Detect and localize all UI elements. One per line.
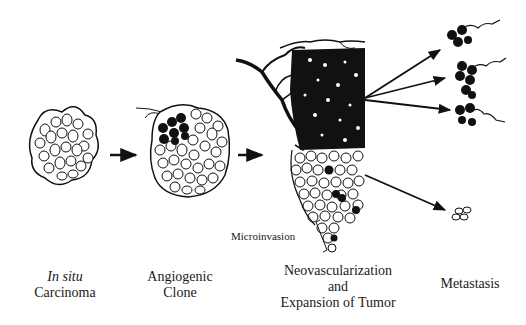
carcinoma-text: Carcinoma xyxy=(34,285,95,300)
angiogenic-text: Angiogenic xyxy=(147,269,212,284)
expansion-text: Expansion of Tumor xyxy=(280,295,395,310)
metastatic-cluster-3 xyxy=(455,103,505,126)
microinvasion-label: Microinvasion xyxy=(231,230,295,242)
clone-text: Clone xyxy=(163,285,196,300)
neovascularized-tumor xyxy=(236,40,365,252)
stage-label-metastasis: Metastasis xyxy=(425,276,515,292)
angiogenic-clone-cluster xyxy=(136,105,229,197)
in-situ-carcinoma-cluster xyxy=(30,107,99,185)
metastasis-arrows xyxy=(365,50,450,210)
dormant-cells-cluster xyxy=(452,207,471,220)
neovascularization-text: Neovascularization xyxy=(284,263,392,278)
metastatic-cluster-2 xyxy=(455,58,506,99)
stage-label-neovascularization: Neovascularization and Expansion of Tumo… xyxy=(268,263,408,311)
diagram-canvas: Microinvasion In situ Carcinoma Angiogen… xyxy=(0,0,526,325)
in-situ-italic: In situ xyxy=(47,269,82,284)
metastatic-cluster-1 xyxy=(447,20,500,47)
stage-label-in-situ: In situ Carcinoma xyxy=(20,269,110,301)
and-text: and xyxy=(328,279,348,294)
metastasis-clusters xyxy=(447,20,506,220)
stage-label-angiogenic-clone: Angiogenic Clone xyxy=(130,269,230,301)
